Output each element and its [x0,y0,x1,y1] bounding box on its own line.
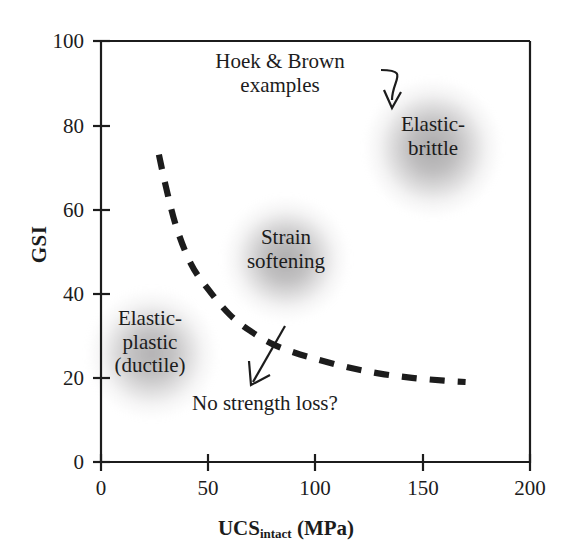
x-tick-label-0: 0 [71,478,131,499]
x-tick-label-100: 100 [285,478,345,499]
hoek-brown-arrow [381,70,401,108]
y-tick-label-0: 0 [38,452,84,473]
region-label-elastic-brittle: Elastic- brittle [372,113,494,160]
y-tick-label-20: 20 [38,368,84,389]
region-label-elastic-plastic: Elastic- plastic (ductile) [86,307,214,378]
y-axis-title: GSI [27,200,52,290]
y-tick-label-80: 80 [38,116,84,137]
annotation-no-strength-loss: No strength loss? [192,392,422,416]
x-tick-label-200: 200 [500,478,560,499]
x-axis-title: UCSintact (MPa) [176,516,396,542]
annotation-hoek-brown-examples: Hoek & Brown examples [178,50,382,97]
x-tick-label-50: 50 [178,478,238,499]
x-axis-title-subscript: intact [260,526,292,541]
x-axis-title-main: UCS [218,516,260,540]
x-tick-label-150: 150 [393,478,453,499]
x-axis-title-unit: (MPa) [292,516,354,540]
chart-figure: 100 80 60 40 20 0 0 50 100 150 200 GSI U… [0,0,572,559]
region-label-strain-softening: Strain softening [222,226,350,273]
y-tick-label-100: 100 [38,31,84,52]
